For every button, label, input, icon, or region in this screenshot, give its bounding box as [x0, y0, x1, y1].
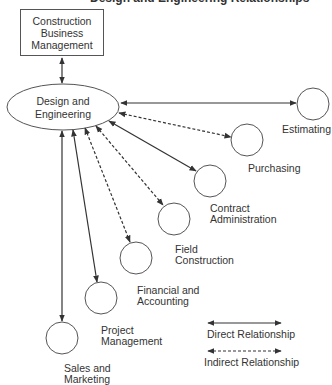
title-partial: Design and Engineering Relationships	[90, 0, 309, 5]
purchasing-label: Purchasing	[248, 162, 301, 174]
edge-financial-and-accounting	[85, 128, 130, 242]
field-construction-label-2: Construction	[175, 254, 234, 266]
estimating-label: Estimating	[282, 123, 331, 135]
project-management-label-2: Management	[101, 335, 162, 347]
construction-business-management-label: Construction Business Management	[31, 15, 92, 51]
sales-and-marketing-node	[46, 322, 78, 354]
legend-direct-label: Direct Relationship	[207, 328, 295, 340]
sales-and-marketing-label-2: Marketing	[64, 373, 110, 385]
design-and-engineering-label: Design and Engineering	[7, 95, 119, 120]
edge-purchasing	[119, 113, 231, 137]
financial-and-accounting-label-2: Accounting	[137, 295, 189, 307]
estimating-node	[297, 88, 329, 120]
edge-contract-administration	[109, 121, 196, 171]
edge-field-construction	[96, 126, 163, 205]
edge-project-management	[73, 130, 97, 282]
project-management-node	[85, 282, 117, 314]
contract-administration-node	[194, 165, 226, 197]
purchasing-node	[231, 124, 263, 156]
legend-indirect-label: Indirect Relationship	[204, 356, 299, 368]
financial-and-accounting-node	[120, 242, 152, 274]
construction-business-management-box: Construction Business Management	[20, 9, 104, 56]
contract-administration-label-2: Administration	[210, 213, 277, 225]
field-construction-node	[158, 203, 190, 235]
